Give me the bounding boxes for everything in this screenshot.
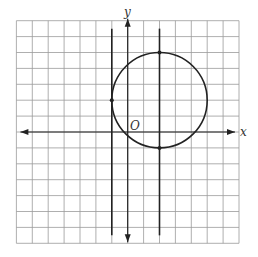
coordinate-plane: x y O — [0, 0, 258, 257]
point — [110, 98, 114, 102]
origin-label: O — [130, 119, 140, 133]
point — [158, 51, 162, 55]
point — [158, 146, 162, 150]
x-axis-right-arrow-icon — [227, 129, 235, 135]
y-axis-label: y — [123, 5, 131, 19]
y-axis-down-arrow-icon — [125, 234, 131, 242]
x-axis-label: x — [240, 125, 247, 139]
y-axis-up-arrow-icon — [125, 19, 131, 27]
x-axis-left-arrow-icon — [20, 129, 28, 135]
